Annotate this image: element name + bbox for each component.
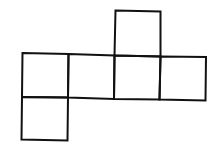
square-row1-col0: [22, 53, 69, 98]
square-bottom: [22, 97, 69, 141]
square-row1-col2: [114, 56, 161, 100]
cube-net-diagram: [0, 0, 217, 147]
square-row1-col1: [68, 54, 115, 99]
square-row1-col3: [160, 57, 207, 101]
square-top: [115, 11, 161, 57]
